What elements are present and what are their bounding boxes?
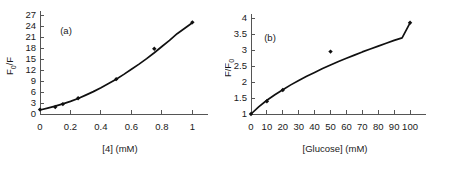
y-tick-label: 1 — [242, 108, 247, 119]
y-tick-label: 15 — [25, 53, 36, 64]
chart-a-canvas: 036912151821242700.20.40.60.81(a)[4] (mM… — [0, 0, 225, 170]
y-tick-label: 24 — [25, 20, 36, 31]
y-tick-group: 0369121518212427 — [25, 9, 44, 119]
panel-tag-label: (a) — [60, 25, 72, 36]
y-tick-label: 3 — [31, 97, 36, 108]
x-tick-label: 1 — [190, 121, 195, 132]
y-tick-label: 9 — [31, 75, 36, 86]
x-tick-label: 90 — [389, 121, 400, 132]
x-tick-label: 60 — [341, 121, 352, 132]
x-tick-label: 0.2 — [64, 121, 77, 132]
x-tick-label: 0 — [37, 121, 42, 132]
figure-root: 036912151821242700.20.40.60.81(a)[4] (mM… — [0, 0, 449, 170]
x-tick-label: 0.6 — [125, 121, 138, 132]
x-tick-label: 20 — [278, 121, 289, 132]
x-tick-label: 0 — [248, 121, 253, 132]
y-tick-label: 2.5 — [234, 60, 247, 71]
x-tick-label: 0.4 — [94, 121, 107, 132]
y-tick-label: 0 — [31, 108, 36, 119]
chart-panel-b: 11.522.533.540102030405060708090100(b)[G… — [225, 0, 449, 170]
data-point — [38, 107, 42, 111]
x-tick-label: 30 — [293, 121, 304, 132]
x-tick-label: 0.8 — [155, 121, 168, 132]
x-axis-title: [4] (mM) — [102, 143, 137, 154]
x-axis-title: [Glucose] (mM) — [303, 143, 368, 154]
y-tick-label: 12 — [25, 64, 36, 75]
y-tick-label: 2 — [242, 76, 247, 87]
y-tick-group: 11.522.533.54 — [234, 12, 255, 119]
y-tick-label: 1.5 — [234, 92, 247, 103]
x-tick-label: 80 — [373, 121, 384, 132]
panel-tag-label: (b) — [264, 32, 276, 43]
y-tick-label: 3 — [242, 44, 247, 55]
axes-group — [251, 14, 426, 114]
y-axis-title: F0/F — [4, 57, 17, 75]
x-tick-group: 00.20.40.60.81 — [37, 110, 195, 132]
x-tick-label: 10 — [262, 121, 273, 132]
y-tick-label: 18 — [25, 42, 36, 53]
x-tick-label: 50 — [325, 121, 336, 132]
x-tick-label: 40 — [309, 121, 320, 132]
y-tick-label: 21 — [25, 31, 36, 42]
x-tick-label: 100 — [402, 121, 418, 132]
chart-b-canvas: 11.522.533.540102030405060708090100(b)[G… — [225, 0, 449, 170]
y-tick-label: 3.5 — [234, 28, 247, 39]
data-point — [328, 49, 332, 53]
y-tick-label: 4 — [242, 12, 247, 23]
x-tick-group: 0102030405060708090100 — [248, 110, 418, 132]
y-tick-label: 27 — [25, 9, 36, 20]
y-tick-label: 6 — [31, 86, 36, 97]
x-tick-label: 70 — [357, 121, 368, 132]
data-point — [152, 47, 156, 51]
chart-panel-a: 036912151821242700.20.40.60.81(a)[4] (mM… — [0, 0, 225, 170]
